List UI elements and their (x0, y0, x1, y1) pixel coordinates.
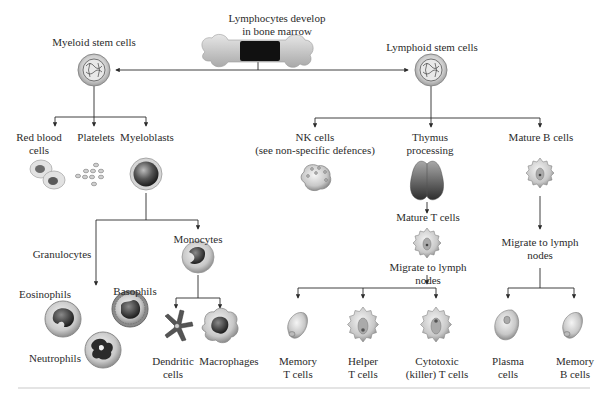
label-line: cells (14, 144, 64, 157)
bone-icon (202, 34, 313, 67)
label-line: Memory (274, 355, 322, 368)
memory-t-cell-icon (288, 312, 308, 338)
label-line: nodes (496, 249, 584, 262)
platelets-label: Platelets (76, 131, 116, 144)
migrate-lymph-b-label: Migrate to lymph nodes (496, 236, 584, 262)
nk-cell-icon (301, 165, 331, 191)
mature-t-cell-icon (413, 228, 441, 258)
macrophages-label: Macrophages (196, 355, 262, 368)
neutrophil-icon (85, 332, 121, 368)
label-line: Memory (550, 355, 600, 368)
red-blood-cells-label: Red blood cells (14, 131, 64, 157)
label-line: Helper (340, 355, 386, 368)
bone-marrow-title: Lymphocytes develop in bone marrow (222, 12, 332, 38)
label-line: Red blood (14, 131, 64, 144)
myeloid-stem-cells-label: Myeloid stem cells (44, 36, 144, 49)
label-line: NK cells (252, 131, 378, 144)
myeloid-stem-cell-icon (78, 54, 110, 86)
cytotoxic-t-cell-icon (421, 307, 452, 342)
myeloblast-icon (130, 158, 162, 190)
label-line: nodes (384, 274, 472, 287)
granulocytes-label: Granulocytes (30, 248, 94, 261)
nk-cells-label: NK cells (see non-specific defences) (252, 131, 378, 157)
label-line: (killer) T cells (400, 368, 474, 381)
memory-t-cells-label: Memory T cells (274, 355, 322, 381)
helper-t-cell-icon (348, 307, 379, 342)
myeloblasts-label: Myeloblasts (118, 131, 176, 144)
mature-t-cells-label: Mature T cells (392, 211, 464, 224)
title-line-1: Lymphocytes develop (222, 12, 332, 25)
cytotoxic-t-cells-label: Cytotoxic (killer) T cells (400, 355, 474, 381)
memory-b-cell-icon (563, 312, 583, 338)
lymphoid-stem-cell-icon (415, 54, 447, 86)
helper-t-cells-label: Helper T cells (340, 355, 386, 381)
thymus-icon (410, 161, 443, 200)
eosinophils-label: Eosinophils (17, 288, 73, 301)
lymphoid-stem-cells-label: Lymphoid stem cells (380, 41, 484, 54)
label-line: Migrate to lymph (384, 261, 472, 274)
diagram-canvas (0, 0, 608, 393)
label-line: cells (148, 368, 198, 381)
dendritic-cells-label: Dendritic cells (148, 355, 198, 381)
label-line: T cells (340, 368, 386, 381)
immune-cell-lineage-diagram: Lymphocytes develop in bone marrow Myelo… (0, 0, 608, 393)
label-line: Cytotoxic (400, 355, 474, 368)
macrophage-icon (202, 308, 238, 342)
label-line: Thymus (400, 131, 460, 144)
mature-b-cells-label: Mature B cells (504, 131, 578, 144)
neutrophils-label: Neutrophils (26, 352, 84, 365)
mature-b-cell-icon (526, 158, 554, 188)
label-line: (see non-specific defences) (252, 144, 378, 157)
label-line: Dendritic (148, 355, 198, 368)
title-line-2: in bone marrow (222, 25, 332, 38)
monocytes-label: Monocytes (166, 233, 230, 246)
bottom-divider (18, 387, 590, 389)
red-blood-cells-icon (30, 160, 65, 189)
eosinophil-icon (45, 301, 81, 337)
platelets-icon (75, 163, 103, 186)
label-line: B cells (550, 368, 600, 381)
basophils-label: Basophils (110, 285, 160, 298)
label-line: T cells (274, 368, 322, 381)
migrate-lymph-t-label: Migrate to lymph nodes (384, 261, 472, 287)
label-line: Plasma (488, 355, 528, 368)
dendritic-cell-icon (165, 310, 193, 341)
plasma-cells-label: Plasma cells (488, 355, 528, 381)
thymus-processing-label: Thymus processing (400, 131, 460, 157)
label-line: Migrate to lymph (496, 236, 584, 249)
plasma-cell-icon (495, 310, 519, 340)
label-line: processing (400, 144, 460, 157)
label-line: cells (488, 368, 528, 381)
memory-b-cells-label: Memory B cells (550, 355, 600, 381)
